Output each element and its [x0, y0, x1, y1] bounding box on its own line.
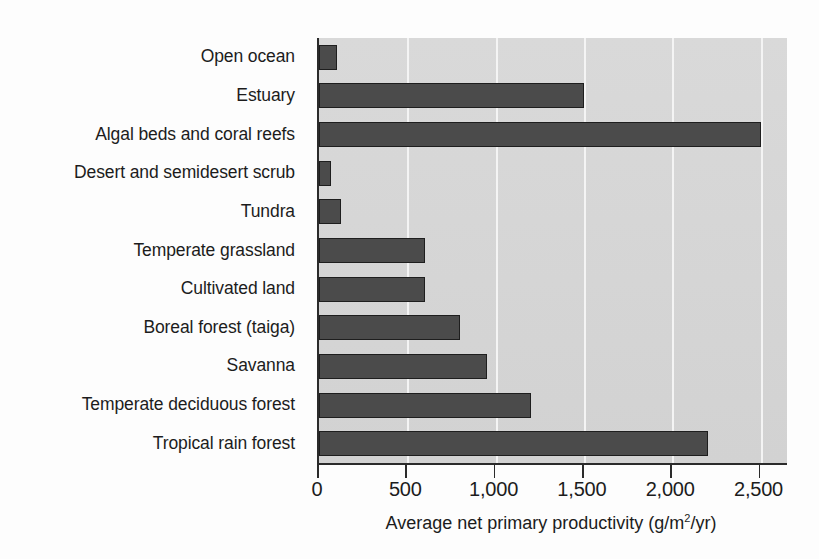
bar — [319, 393, 531, 418]
bar — [319, 161, 331, 186]
category-label: Estuary — [0, 87, 306, 105]
category-label: Boreal forest (taiga) — [0, 319, 306, 337]
category-label: Temperate deciduous forest — [0, 396, 306, 414]
category-axis-labels: Open oceanEstuaryAlgal beds and coral re… — [0, 38, 306, 463]
x-axis-title-suffix: /yr) — [690, 513, 716, 533]
x-tick-label: 2,500 — [734, 478, 783, 501]
chart-figure: Open oceanEstuaryAlgal beds and coral re… — [0, 0, 819, 559]
x-tick-label: 0 — [312, 478, 323, 501]
x-tick-1000 — [494, 465, 496, 478]
x-tick-label: 1,500 — [557, 478, 606, 501]
gridline-1500 — [584, 38, 586, 463]
x-tick-2500 — [759, 465, 761, 478]
category-label: Temperate grassland — [0, 242, 306, 260]
x-axis: 05001,0001,5002,0002,500 — [317, 465, 785, 479]
x-tick-1500 — [582, 465, 584, 478]
x-axis-title-prefix: Average net primary productivity (g/m — [386, 513, 685, 533]
bar — [319, 45, 337, 70]
category-label: Desert and semidesert scrub — [0, 164, 306, 182]
plot-area — [317, 38, 787, 465]
category-label: Algal beds and coral reefs — [0, 126, 306, 144]
bar — [319, 83, 584, 108]
x-tick-label: 500 — [389, 478, 422, 501]
category-label: Tropical rain forest — [0, 435, 306, 453]
x-tick-label: 1,000 — [469, 478, 518, 501]
x-tick-500 — [405, 465, 407, 478]
x-tick-label: 2,000 — [646, 478, 695, 501]
bar — [319, 277, 425, 302]
bar — [319, 238, 425, 263]
x-axis-title: Average net primary productivity (g/m2/y… — [317, 512, 785, 534]
gridline-2500 — [761, 38, 763, 463]
category-label: Tundra — [0, 203, 306, 221]
bar — [319, 354, 487, 379]
gridline-2000 — [672, 38, 674, 463]
category-label: Savanna — [0, 357, 306, 375]
bar — [319, 122, 761, 147]
category-label: Open ocean — [0, 48, 306, 66]
category-label: Cultivated land — [0, 280, 306, 298]
x-tick-2000 — [670, 465, 672, 478]
bar — [319, 199, 341, 224]
bar — [319, 315, 460, 340]
bar — [319, 431, 708, 456]
x-tick-0 — [317, 465, 319, 478]
